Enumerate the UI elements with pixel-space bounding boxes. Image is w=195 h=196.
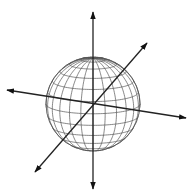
diagram-canvas — [0, 0, 195, 196]
sphere-axes-diagram — [0, 0, 195, 196]
coordinate-axes — [7, 12, 186, 189]
